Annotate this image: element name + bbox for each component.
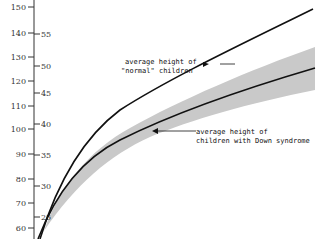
right-tick-label: 45 xyxy=(41,89,51,98)
growth-chart: 15014013012011010090807060 5550454035302… xyxy=(0,0,335,239)
left-tick-label: 60 xyxy=(16,224,26,233)
right-tick-label: 30 xyxy=(41,182,51,191)
right-tick-label: 35 xyxy=(41,151,51,160)
right-tick-label: 50 xyxy=(41,62,51,71)
left-tick-label: 120 xyxy=(11,77,26,86)
chart-svg: 15014013012011010090807060 5550454035302… xyxy=(0,0,335,239)
normal-annotation-line2: "normal" children xyxy=(121,67,193,75)
left-tick-label: 100 xyxy=(11,125,26,134)
left-tick-label: 70 xyxy=(16,199,26,208)
down-annotation-line1: average height of xyxy=(196,128,268,136)
right-tick-label: 55 xyxy=(41,30,51,39)
right-ticks-inch: 55504540353025 xyxy=(34,30,51,222)
left-tick-label: 80 xyxy=(16,175,26,184)
left-tick-label: 140 xyxy=(11,29,26,38)
left-tick-label: 90 xyxy=(16,150,26,159)
left-tick-label: 150 xyxy=(11,3,26,12)
down-annotation-line2: children with Down syndrome xyxy=(196,137,310,145)
right-tick-label: 40 xyxy=(41,120,51,129)
left-tick-label: 130 xyxy=(11,53,26,62)
normal-annotation-line1: average height of xyxy=(125,58,197,66)
left-tick-label: 110 xyxy=(11,102,26,111)
left-ticks-cm: 15014013012011010090807060 xyxy=(11,3,34,233)
